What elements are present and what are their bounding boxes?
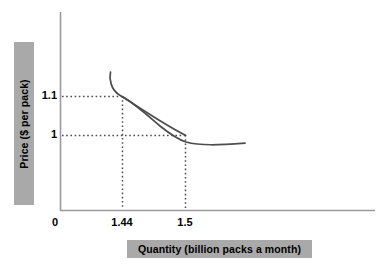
y-axis-label-band: Price ($ per pack)	[14, 42, 34, 205]
x-tick-label-1-44: 1.44	[104, 216, 140, 228]
x-tick-label-1-5: 1.5	[169, 216, 201, 228]
x-axis-label-text: Quantity (billion packs a month)	[138, 243, 301, 255]
y-axis-label-text: Price ($ per pack)	[18, 79, 30, 168]
y-tick-label-1: 1	[31, 128, 57, 140]
x-axis-label-band: Quantity (billion packs a month)	[127, 240, 312, 258]
chart-figure: Price ($ per pack) Quantity (billion pac…	[0, 0, 390, 268]
x-tick-label-0: 0	[43, 216, 67, 228]
arc-between-points	[123, 97, 186, 136]
y-tick-label-1-1: 1.1	[31, 89, 57, 101]
demand-curve	[110, 72, 245, 145]
